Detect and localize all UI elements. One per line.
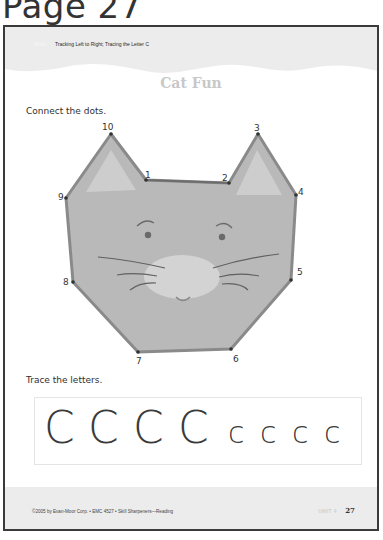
page-label: Page 27 (2, 0, 142, 26)
dot-label-1: 1 (145, 170, 151, 180)
trace-letter-lower-2[interactable]: c (260, 418, 277, 448)
letter-tracing-box: C C C C c c c c (34, 397, 362, 465)
trace-letter-upper-3[interactable]: C (133, 406, 164, 450)
copyright-text: ©2005 by Evan-Moor Corp. • EMC 4527 • Sk… (32, 509, 173, 514)
trace-letter-lower-4[interactable]: c (324, 418, 341, 448)
dot-label-2: 2 (222, 173, 228, 183)
dot-label-8: 8 (63, 277, 69, 287)
dot-label-9: 9 (58, 192, 64, 202)
trace-letter-upper-4[interactable]: C (178, 406, 209, 450)
dot-label-10: 10 (102, 122, 114, 132)
dot-label-5: 5 (297, 267, 303, 277)
dot-label-4: 4 (298, 187, 304, 197)
right-eye (219, 234, 225, 240)
worksheet-page: Skills Tracking Left to Right; Tracing t… (3, 25, 379, 531)
trace-letters-instruction: Trace the letters. (26, 375, 102, 385)
left-eye (145, 232, 151, 238)
trace-letter-upper-2[interactable]: C (88, 406, 119, 450)
trace-letter-lower-3[interactable]: c (292, 418, 309, 448)
unit-label: UNIT 4 (318, 508, 337, 514)
cat-muzzle (144, 255, 220, 299)
dot-label-7: 7 (136, 356, 142, 366)
page-number: 27 (345, 506, 355, 515)
dot-label-6: 6 (233, 354, 239, 364)
trace-letter-lower-1[interactable]: c (228, 418, 245, 448)
dot-label-3: 3 (254, 123, 260, 133)
trace-letter-upper-1[interactable]: C (44, 406, 75, 450)
